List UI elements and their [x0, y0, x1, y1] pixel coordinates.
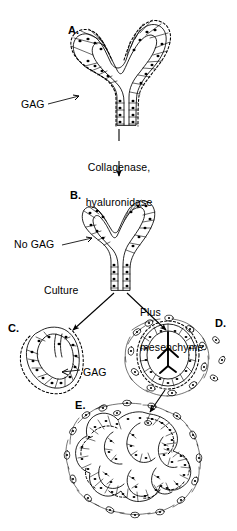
panel-a-bud [71, 20, 171, 126]
nogag-pointer [62, 237, 92, 245]
label-gag-bottom: GAG [83, 367, 107, 379]
label-no-gag: No GAG [14, 239, 54, 251]
panel-letter-a: A. [68, 24, 79, 36]
panel-e-gland [76, 412, 191, 502]
panel-letter-c: C. [8, 322, 19, 334]
plus-mesenchyme-line-1: Plus [140, 307, 220, 319]
label-gag-top: GAG [21, 99, 45, 111]
label-culture: Culture [44, 285, 79, 297]
plus-mesenchyme-line-2: mesenchyme [140, 342, 220, 354]
label-enzyme-treatment: Collagenase, hyaluronidase [60, 138, 178, 232]
label-plus-mesenchyme: Plus mesenchyme [140, 283, 220, 377]
panel-c-bud [20, 327, 83, 394]
morphogenesis-illustration [0, 0, 237, 531]
arrow-b-to-c [73, 293, 114, 330]
gag-pointer-a [48, 95, 79, 104]
figure-root: A. B. C. D. E. GAG No GAG GAG Collagenas… [0, 0, 237, 531]
treatment-line-2: hyaluronidase [60, 197, 178, 209]
panel-letter-e: E. [75, 399, 86, 411]
treatment-line-1: Collagenase, [60, 162, 178, 174]
